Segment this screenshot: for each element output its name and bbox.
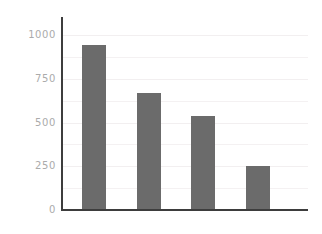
x-axis-line bbox=[61, 209, 308, 211]
y-axis-tick-label: 750 bbox=[0, 74, 56, 84]
bar bbox=[137, 93, 161, 210]
bar-chart: 02505007501000 bbox=[0, 0, 322, 234]
y-axis-tick-label: 1000 bbox=[0, 30, 56, 40]
y-axis-tick-label: 500 bbox=[0, 118, 56, 128]
bar bbox=[246, 166, 270, 210]
bar bbox=[191, 116, 215, 210]
bar-series bbox=[62, 17, 308, 210]
y-axis-tick-labels: 02505007501000 bbox=[0, 0, 56, 234]
y-axis-line bbox=[61, 17, 63, 211]
bar bbox=[82, 45, 106, 210]
y-axis-tick-label: 0 bbox=[0, 205, 56, 215]
y-axis-tick-label: 250 bbox=[0, 161, 56, 171]
plot-area bbox=[62, 17, 308, 210]
